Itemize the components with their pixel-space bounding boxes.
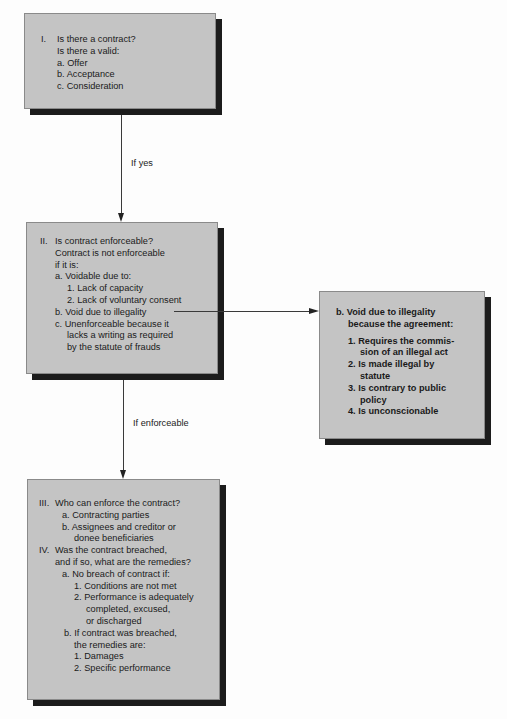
box2-line: c. Unenforceable because it [40, 319, 217, 331]
box4-line: donee beneficiaries [39, 533, 219, 545]
arrow-down-icon [118, 213, 124, 222]
connector-yes-label: If yes [131, 158, 153, 168]
box4-line: 2. Specific performance [39, 663, 219, 675]
box3-heading-line: because the agreement: [336, 319, 484, 331]
box4-section4-row: IV. Was the contract breached, [39, 545, 219, 557]
box4-line: b. Assignees and creditor or [39, 522, 219, 534]
box2-illegality-line: b. Void due to illegality [40, 307, 217, 319]
box4-line: the remedies are: [39, 640, 219, 652]
box4-line: 1. Damages [39, 651, 219, 663]
enforcement-remedies-box: III. Who can enforce the contract? a. Co… [27, 479, 220, 700]
box3-item: 1. Requires the commis- [336, 336, 484, 348]
box2-line: if it is: [40, 260, 217, 272]
box1-numeral: I. [41, 34, 46, 46]
box4-section4-numeral: IV. [39, 545, 49, 557]
box2-line: 1. Lack of capacity [40, 283, 217, 295]
arrow-right-icon [309, 308, 319, 314]
box1-line: Is there a contract? [57, 34, 136, 44]
box2-question-row: II. Is contract enforceable? [40, 236, 217, 248]
box3-heading-line: b. Void due to illegality [336, 307, 484, 319]
box2-line: Is contract enforceable? [55, 236, 153, 246]
box1-line: a. Offer [41, 58, 215, 70]
box2-numeral: II. [40, 236, 48, 248]
illegality-detail-box: b. Void due to illegality because the ag… [319, 291, 485, 439]
box4-line: Was the contract breached, [55, 545, 167, 555]
box1-line: Is there a valid: [41, 46, 215, 58]
box4-line: b. If contract was breached, [39, 628, 219, 640]
box4-section3-row: III. Who can enforce the contract? [39, 498, 219, 510]
box1-question-row: I. Is there a contract? [41, 34, 215, 46]
box3-item: 3. Is contrary to public [336, 383, 484, 395]
box3-item: policy [336, 395, 484, 407]
box4-line: a. No breach of contract if: [39, 569, 219, 581]
enforceability-box: II. Is contract enforceable? Contract is… [26, 222, 218, 374]
connector-yes-line [121, 115, 122, 215]
box2-line: by the statute of frauds [40, 342, 217, 354]
box4-line: or discharged [39, 616, 219, 628]
connector-illegality-line [174, 311, 310, 312]
contract-existence-box: I. Is there a contract? Is there a valid… [24, 13, 216, 109]
box4-line: 1. Conditions are not met [39, 581, 219, 593]
connector-enforceable-line [123, 380, 124, 472]
box2-line: lacks a writing as required [40, 330, 217, 342]
box2-line: 2. Lack of voluntary consent [40, 295, 217, 307]
box4-line: completed, excused, [39, 604, 219, 616]
box3-item: 2. Is made illegal by [336, 359, 484, 371]
connector-enforceable-label: If enforceable [133, 418, 189, 428]
box4-section3-numeral: III. [39, 498, 49, 510]
box4-line: and if so, what are the remedies? [39, 557, 219, 569]
box4-line: 2. Performance is adequately [39, 592, 219, 604]
box3-item: sion of an illegal act [336, 347, 484, 359]
box1-line: c. Consideration [41, 81, 215, 93]
box1-line: b. Acceptance [41, 69, 215, 81]
arrow-down-icon [120, 470, 126, 479]
box3-item: statute [336, 371, 484, 383]
box4-line: a. Contracting parties [39, 510, 219, 522]
box3-item: 4. Is unconscionable [336, 406, 484, 418]
box2-line: Contract is not enforceable [40, 248, 217, 260]
box2-line: a. Voidable due to: [40, 271, 217, 283]
box4-line: Who can enforce the contract? [55, 498, 180, 508]
